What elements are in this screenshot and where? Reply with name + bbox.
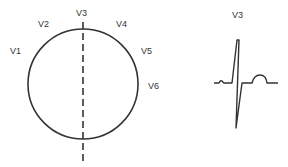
waveform-title: V3 — [232, 10, 243, 20]
label-v6: V6 — [148, 81, 159, 91]
label-v5: V5 — [141, 46, 152, 56]
label-v3: V3 — [76, 8, 87, 18]
label-v4: V4 — [116, 19, 127, 29]
ecg-waveform — [214, 40, 278, 128]
label-v2: V2 — [38, 19, 49, 29]
label-v1: V1 — [10, 46, 21, 56]
ecg-diagram: V1 V2 V3 V4 V5 V6 V3 — [0, 0, 288, 167]
